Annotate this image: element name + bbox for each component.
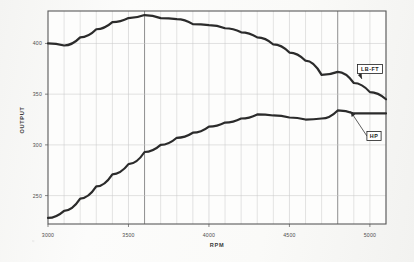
x-tick-label: 4500 bbox=[283, 232, 295, 238]
y-tick-label: 400 bbox=[33, 40, 42, 46]
x-tick-label: 5000 bbox=[364, 232, 376, 238]
y-tick-label: 350 bbox=[33, 91, 42, 97]
y-axis-tick-labels: 250300350400 bbox=[33, 40, 42, 198]
x-tick-label: 3500 bbox=[122, 232, 134, 238]
x-axis-title: RPM bbox=[210, 242, 225, 248]
y-tick-label: 250 bbox=[33, 193, 42, 199]
plot-background bbox=[48, 11, 386, 224]
callout-label: HP bbox=[370, 133, 378, 139]
x-tick-label: 3000 bbox=[42, 232, 54, 238]
chart-svg: 30003500400045005000 250300350400 LB-FTH… bbox=[0, 0, 414, 262]
callout-label: LB-FT bbox=[361, 66, 379, 72]
x-axis-tick-labels: 30003500400045005000 bbox=[42, 224, 376, 238]
dyno-output-chart: 30003500400045005000 250300350400 LB-FTH… bbox=[0, 0, 414, 262]
y-axis-title: OUTPUT bbox=[19, 106, 25, 133]
y-tick-label: 300 bbox=[33, 142, 42, 148]
x-tick-label: 4000 bbox=[203, 232, 215, 238]
